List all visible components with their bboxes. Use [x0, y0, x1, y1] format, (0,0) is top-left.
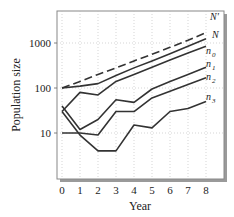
x-axis-ticks: 012345678	[59, 184, 209, 196]
x-tick-label: 8	[203, 184, 209, 196]
y-tick-label: 1000	[29, 37, 52, 49]
x-tick-label: 3	[113, 184, 119, 196]
x-tick-label: 6	[167, 184, 173, 196]
svg-text:1: 1	[212, 64, 216, 72]
population-chart: 012345678 101001000 Year Population size…	[0, 0, 234, 217]
y-axis-ticks: 101001000	[29, 37, 57, 139]
svg-text:n: n	[206, 71, 211, 82]
x-tick-label: 1	[77, 184, 83, 196]
svg-text:n: n	[206, 45, 211, 56]
y-tick-label: 100	[35, 82, 52, 94]
svg-text:2: 2	[212, 77, 216, 85]
series-label-nprime: N′	[209, 11, 220, 22]
x-tick-label: 0	[59, 184, 65, 196]
y-axis-label: Population size	[9, 58, 23, 132]
series-label-n: N	[211, 29, 220, 40]
x-tick-label: 4	[131, 184, 137, 196]
svg-text:n: n	[206, 91, 211, 102]
svg-text:3: 3	[211, 97, 216, 105]
svg-text:n: n	[206, 58, 211, 69]
x-tick-label: 2	[95, 184, 101, 196]
y-tick-label: 10	[40, 127, 52, 139]
svg-text:0: 0	[212, 51, 216, 59]
x-axis-label: Year	[129, 199, 151, 213]
x-tick-label: 5	[149, 184, 155, 196]
x-tick-label: 7	[185, 184, 191, 196]
